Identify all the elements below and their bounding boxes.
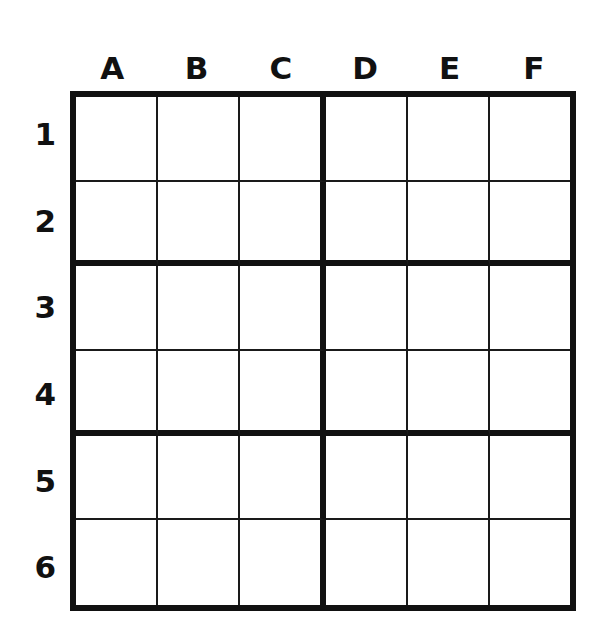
cell-value xyxy=(490,351,570,430)
column-header-b: B xyxy=(154,36,238,84)
grid-row xyxy=(76,266,570,351)
grid-cell-e3[interactable] xyxy=(408,266,490,351)
grid-row xyxy=(76,182,570,267)
grid-row xyxy=(76,97,570,182)
grid-cell-a4[interactable] xyxy=(76,351,158,436)
cell-value xyxy=(408,97,488,180)
cell-value xyxy=(408,436,488,519)
grid-row xyxy=(76,520,570,605)
grid-cell-f2[interactable] xyxy=(490,182,570,267)
column-header-f: F xyxy=(492,36,576,84)
grid-row xyxy=(76,436,570,521)
cell-value xyxy=(490,436,570,519)
cell-value xyxy=(158,97,238,180)
grid-cell-c2[interactable] xyxy=(240,182,326,267)
column-header-a: A xyxy=(70,36,154,84)
grid-cell-c5[interactable] xyxy=(240,436,326,521)
cell-value xyxy=(490,520,570,605)
grid-cell-b6[interactable] xyxy=(158,520,240,605)
grid-cell-b1[interactable] xyxy=(158,97,240,182)
grid-cell-b5[interactable] xyxy=(158,436,240,521)
row-header-5: 5 xyxy=(14,438,64,525)
cell-value xyxy=(326,436,406,519)
cell-value xyxy=(408,182,488,261)
row-header-6: 6 xyxy=(14,524,64,611)
grid-cell-c3[interactable] xyxy=(240,266,326,351)
grid-cell-e4[interactable] xyxy=(408,351,490,436)
sudoku-grid xyxy=(70,91,576,611)
cell-value xyxy=(158,182,238,261)
column-header-e: E xyxy=(407,36,491,84)
cell-value xyxy=(158,266,238,349)
grid-cell-a2[interactable] xyxy=(76,182,158,267)
grid-cell-c4[interactable] xyxy=(240,351,326,436)
grid-cell-d1[interactable] xyxy=(326,97,408,182)
grid-cell-d4[interactable] xyxy=(326,351,408,436)
row-header-1: 1 xyxy=(14,91,64,178)
grid-cell-d5[interactable] xyxy=(326,436,408,521)
cell-value xyxy=(76,182,156,261)
grid-cell-e1[interactable] xyxy=(408,97,490,182)
column-header-row: A B C D E F xyxy=(70,36,576,84)
grid-cell-e5[interactable] xyxy=(408,436,490,521)
cell-value xyxy=(490,97,570,180)
cell-value xyxy=(326,97,406,180)
cell-value xyxy=(326,520,406,605)
grid-cell-f6[interactable] xyxy=(490,520,570,605)
grid-cell-f4[interactable] xyxy=(490,351,570,436)
grid-cell-d3[interactable] xyxy=(326,266,408,351)
grid-cell-a5[interactable] xyxy=(76,436,158,521)
grid-cell-a1[interactable] xyxy=(76,97,158,182)
cell-value xyxy=(76,436,156,519)
cell-value xyxy=(240,351,320,430)
column-header-c: C xyxy=(239,36,323,84)
cell-value xyxy=(76,351,156,430)
grid-cell-e2[interactable] xyxy=(408,182,490,267)
cell-value xyxy=(240,266,320,349)
cell-value xyxy=(76,97,156,180)
cell-value xyxy=(408,520,488,605)
cell-value xyxy=(326,266,406,349)
row-header-3: 3 xyxy=(14,264,64,351)
cell-value xyxy=(326,351,406,430)
cell-value xyxy=(408,351,488,430)
grid-cell-c1[interactable] xyxy=(240,97,326,182)
grid-cell-f5[interactable] xyxy=(490,436,570,521)
cell-value xyxy=(158,351,238,430)
grid-cell-a3[interactable] xyxy=(76,266,158,351)
cell-value xyxy=(490,182,570,261)
grid-cell-f1[interactable] xyxy=(490,97,570,182)
row-header-2: 2 xyxy=(14,178,64,265)
cell-value xyxy=(490,266,570,349)
grid-cell-b4[interactable] xyxy=(158,351,240,436)
grid-cell-d2[interactable] xyxy=(326,182,408,267)
row-header-column: 1 2 3 4 5 6 xyxy=(14,91,64,611)
cell-value xyxy=(240,520,320,605)
cell-value xyxy=(240,436,320,519)
grid-cell-c6[interactable] xyxy=(240,520,326,605)
cell-value xyxy=(76,520,156,605)
cell-value xyxy=(158,520,238,605)
row-header-4: 4 xyxy=(14,351,64,438)
cell-value xyxy=(408,266,488,349)
grid-cell-d6[interactable] xyxy=(326,520,408,605)
sudoku-puzzle-sheet: A B C D E F 1 2 3 4 5 6 xyxy=(0,0,605,631)
column-header-d: D xyxy=(323,36,407,84)
grid-cell-f3[interactable] xyxy=(490,266,570,351)
cell-value xyxy=(240,182,320,261)
grid-cell-e6[interactable] xyxy=(408,520,490,605)
grid-cell-b3[interactable] xyxy=(158,266,240,351)
cell-value xyxy=(240,97,320,180)
cell-value xyxy=(158,436,238,519)
cell-value xyxy=(76,266,156,349)
cell-value xyxy=(326,182,406,261)
grid-row xyxy=(76,351,570,436)
grid-cell-b2[interactable] xyxy=(158,182,240,267)
grid-cell-a6[interactable] xyxy=(76,520,158,605)
